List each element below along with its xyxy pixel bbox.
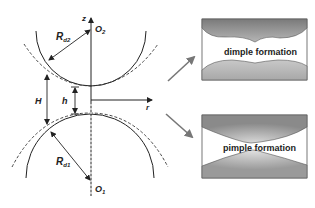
film-gap-label: h (62, 96, 68, 106)
lower-drop-deformed-outline (12, 113, 168, 167)
pimple-caption: pimple formation (223, 143, 296, 153)
dimple-caption: dimple formation (224, 47, 297, 57)
dimple-inset: dimple formation (202, 19, 307, 80)
r-axis-label: r (146, 103, 150, 112)
drop-deformation-diagram: z r O2 O1 Rd2 Rd1 H h dimple formation p… (0, 0, 315, 208)
center-gap-label: H (35, 96, 42, 106)
lower-center-label: O1 (95, 184, 106, 195)
z-axis-label: z (81, 14, 86, 23)
arrow-to-pimple (166, 114, 192, 137)
lower-radius-label: Rd1 (56, 156, 71, 168)
lower-drop-outline (26, 114, 154, 178)
arrow-to-dimple (168, 57, 194, 81)
pimple-inset: pimple formation (202, 115, 307, 178)
upper-radius-label: Rd2 (56, 31, 71, 43)
upper-center-label: O2 (95, 24, 106, 35)
dimple-lower-interface (202, 60, 307, 80)
